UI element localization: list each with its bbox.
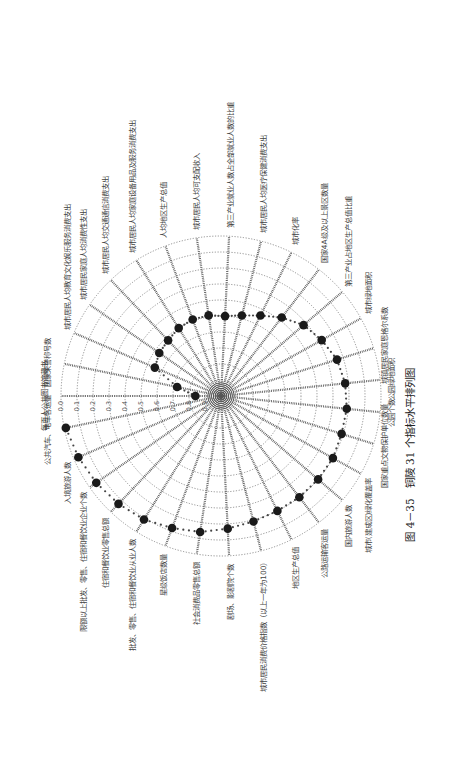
axis-label: 第三产业占地区生产总值比重 xyxy=(344,196,353,287)
data-point xyxy=(249,517,258,526)
connector-dot xyxy=(231,315,233,317)
connector-dot xyxy=(122,506,124,508)
connector-dot xyxy=(81,461,83,463)
connector-dot xyxy=(138,515,140,517)
axis-spoke xyxy=(221,252,291,396)
connector-dot xyxy=(310,485,312,487)
data-point xyxy=(174,324,183,333)
connector-dot xyxy=(310,330,312,332)
data-point xyxy=(295,493,304,502)
axis-label: 城市居民人均可支配收入 xyxy=(192,152,201,230)
connector-dot xyxy=(335,447,337,449)
connector-dot xyxy=(339,368,341,370)
connector-dot xyxy=(104,490,106,492)
data-point xyxy=(256,311,265,320)
connector-dot xyxy=(326,466,328,468)
connector-dot xyxy=(84,466,86,468)
connector-dot xyxy=(182,529,184,531)
axis-label: 城市化率 xyxy=(291,216,300,245)
connector-dot xyxy=(158,370,160,372)
data-point xyxy=(333,355,342,364)
connector-dot xyxy=(345,392,347,394)
axis-spoke xyxy=(111,396,221,512)
tick-label: 0.0 xyxy=(57,401,65,411)
connector-dot xyxy=(268,315,270,317)
connector-dot xyxy=(216,529,218,531)
connector-dot xyxy=(313,333,315,335)
axis-label: 国家4A级及以上景区数量 xyxy=(320,182,329,263)
connector-dot xyxy=(162,347,164,349)
connector-dot xyxy=(187,391,189,393)
connector-dot xyxy=(186,322,188,324)
radar-grid xyxy=(61,236,381,556)
connector-dot xyxy=(205,530,207,532)
connector-dot xyxy=(188,529,190,531)
connector-dot xyxy=(327,347,329,349)
connector-dot xyxy=(183,324,185,326)
tick-label: 0.7 xyxy=(169,401,177,411)
connector-dot xyxy=(88,471,90,473)
axis-spoke xyxy=(221,269,319,396)
axis-label: 城市(建成区)绿化覆盖率 xyxy=(364,477,373,554)
connector-dot xyxy=(252,314,254,316)
axis-label: 住宿和餐饮业零售总额 xyxy=(101,517,110,588)
connector-dot xyxy=(234,315,236,317)
connector-dot xyxy=(221,528,223,530)
data-point xyxy=(337,430,346,439)
axis-label: 批发、零售、住宿和餐饮业从业人数 xyxy=(128,538,137,651)
tick-label: 0.2 xyxy=(89,401,97,411)
connector-dot xyxy=(232,526,234,528)
connector-dot xyxy=(193,530,195,532)
connector-dot xyxy=(75,450,77,452)
axis-label: 社会消费品零售总额 xyxy=(192,561,201,625)
connector-dot xyxy=(92,477,94,479)
connector-dot xyxy=(165,525,167,527)
connector-dot xyxy=(201,316,203,318)
connector-dot xyxy=(108,494,110,496)
connector-dot xyxy=(337,442,339,444)
connector-dot xyxy=(217,315,219,317)
data-point xyxy=(173,383,182,392)
axis-label: 地区生产总值 xyxy=(291,546,300,589)
axis-label: 城市居民家庭人均消费性支出 xyxy=(79,209,88,300)
axis-label: 城市居民人均教育文化娱乐服务消费支出 xyxy=(63,204,72,330)
connector-dot xyxy=(272,316,274,318)
axis-label: 城市居民人均交通通信消费支出 xyxy=(101,176,110,274)
data-point xyxy=(92,479,101,488)
connector-dot xyxy=(242,523,244,525)
radial-tick-labels: 0.00.10.20.30.40.50.60.70.80.9 xyxy=(57,401,209,411)
axis-labels: 每百人公共图书馆藏书国家荣誉称号数城市居民人均教育文化娱乐服务消费支出城市居民家… xyxy=(40,102,396,692)
connector-dot xyxy=(156,361,158,363)
tick-label: 0.6 xyxy=(153,401,161,411)
connector-dot xyxy=(306,489,308,491)
tick-label: 0.9 xyxy=(201,401,209,411)
data-series xyxy=(62,311,352,536)
axis-label: 公路运输客运量 xyxy=(320,528,329,578)
data-point xyxy=(151,363,160,372)
axis-label: 第三产业就业人数占全部就业人数的比重 xyxy=(226,102,235,228)
data-point xyxy=(168,524,177,533)
connector-dot xyxy=(156,358,158,360)
axis-label: 城市居民人均家庭设备用品及服务消费支出 xyxy=(128,120,137,253)
data-point xyxy=(317,336,326,345)
connector-dot xyxy=(113,499,115,501)
data-point xyxy=(74,453,83,462)
axis-label: 城市居民人均医疗保健消费支出 xyxy=(259,135,268,233)
data-point xyxy=(341,379,350,388)
connector-dot xyxy=(167,378,169,380)
connector-dot xyxy=(285,504,287,506)
data-point xyxy=(223,524,232,533)
connector-dot xyxy=(214,315,216,317)
data-point xyxy=(314,475,323,484)
connector-dot xyxy=(163,374,165,376)
data-point xyxy=(114,500,123,509)
connector-dot xyxy=(345,403,347,405)
connector-dot xyxy=(289,319,291,321)
connector-dot xyxy=(177,528,179,530)
tick-label: 0.5 xyxy=(137,401,145,411)
data-point xyxy=(238,311,247,320)
data-point xyxy=(196,528,205,537)
connector-dot xyxy=(343,423,345,425)
data-point xyxy=(191,392,200,401)
tick-label: 0.3 xyxy=(105,401,113,411)
